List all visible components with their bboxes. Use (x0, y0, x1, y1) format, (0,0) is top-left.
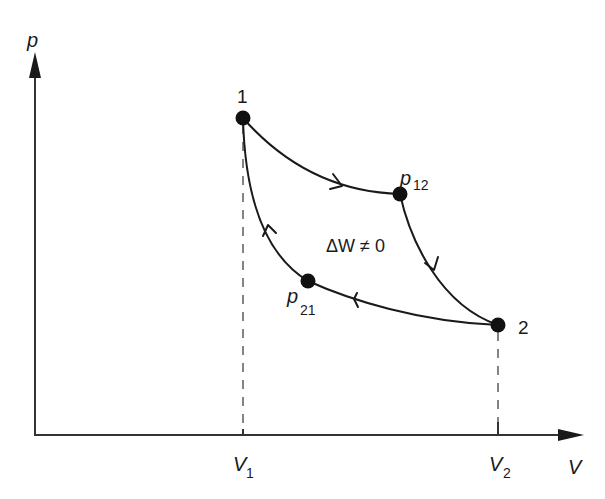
pv-diagram: p V 1 2 p 12 p 21 ΔW ≠ 0 V 1 V 2 (0, 0, 605, 499)
curve-p12-to-2 (400, 194, 498, 325)
v1-label-sub: 1 (246, 465, 254, 481)
point-2-label: 2 (518, 317, 529, 338)
point-p21-label-main: p (286, 285, 298, 307)
axes (29, 52, 584, 441)
state-point-2 (491, 318, 506, 333)
y-axis-label: p (26, 29, 38, 51)
x-axis-label: V (568, 456, 583, 478)
y-axis-arrowhead-icon (29, 52, 41, 78)
arrow-down-icon (425, 257, 438, 270)
point-p21-label-sub: 21 (300, 302, 316, 318)
curve-2-to-p21 (308, 281, 498, 325)
v2-label-sub: 2 (503, 465, 511, 481)
point-p12-label-sub: 12 (413, 177, 429, 193)
cycle (243, 118, 498, 325)
point-p12-label-main: p (399, 167, 411, 189)
curve-1-to-p12 (243, 118, 400, 194)
work-annotation: ΔW ≠ 0 (326, 236, 385, 256)
state-point-p21 (301, 274, 316, 289)
curve-p21-to-1 (243, 118, 308, 281)
v2-label-main: V (489, 453, 504, 475)
point-1-label: 1 (237, 86, 248, 107)
state-point-1 (236, 111, 251, 126)
arrow-up-icon (263, 225, 276, 236)
x-axis-arrowhead-icon (558, 429, 584, 441)
